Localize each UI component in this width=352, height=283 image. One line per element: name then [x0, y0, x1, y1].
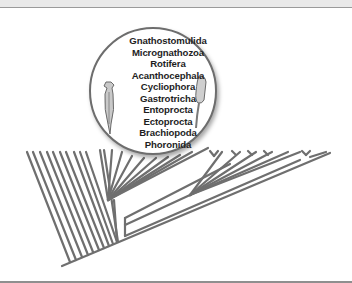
taxon-entoprocta: Entoprocta — [122, 104, 214, 116]
taxon-rotifera: Rotifera — [122, 58, 214, 70]
taxon-acanthocephala: Acanthocephala — [122, 70, 214, 82]
taxon-cycliophora: Cycliophora — [122, 81, 214, 93]
taxon-gnathostomulida: Gnathostomulida — [122, 35, 214, 47]
taxon-phoronida: Phoronida — [122, 139, 214, 151]
taxon-brachiopoda: Brachiopoda — [122, 127, 214, 139]
taxon-ectoprocta: Ectoprocta — [122, 116, 214, 128]
taxa-list: Gnathostomulida Micrognathozoa Rotifera … — [122, 35, 214, 150]
taxon-micrognathozoa: Micrognathozoa — [122, 47, 214, 59]
taxon-gastrotricha: Gastrotricha — [122, 93, 214, 105]
rotifer-illustration — [100, 80, 118, 136]
